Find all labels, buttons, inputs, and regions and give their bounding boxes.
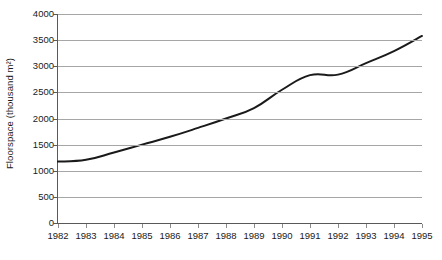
x-axis-tick-mark [282, 224, 283, 228]
x-axis-tick-mark [198, 224, 199, 228]
y-axis-tick-labels: 05001000150020002500300035004000 [18, 0, 54, 232]
x-axis-tick-mark [86, 224, 87, 228]
x-axis-tick-label: 1995 [402, 230, 442, 242]
x-axis-tick-mark [422, 224, 423, 228]
y-axis-tick-mark [53, 14, 58, 15]
y-axis-tick-mark [53, 145, 58, 146]
x-axis-tick-mark [58, 224, 59, 228]
gridline [58, 119, 422, 120]
gridline [58, 145, 422, 146]
gridline [58, 197, 422, 198]
y-axis-tick-label: 3000 [18, 61, 54, 71]
x-axis-line [58, 223, 422, 224]
y-axis-tick-label: 2000 [18, 114, 54, 124]
y-axis-tick-label: 0 [18, 218, 54, 228]
gridline [58, 171, 422, 172]
x-axis-tick-mark [394, 224, 395, 228]
x-axis-tick-labels: 1982198319841985198619871988198919901991… [0, 230, 442, 246]
x-axis-tick-mark [170, 224, 171, 228]
y-axis-tick-label: 1500 [18, 140, 54, 150]
x-axis-tick-mark [114, 224, 115, 228]
gridline [58, 92, 422, 93]
y-axis-tick-mark [53, 197, 58, 198]
y-axis-tick-mark [53, 40, 58, 41]
gridline [58, 14, 422, 15]
y-axis-tick-label: 4000 [18, 9, 54, 19]
y-axis-tick-mark [53, 119, 58, 120]
x-axis-tick-mark [310, 224, 311, 228]
x-axis-tick-mark [226, 224, 227, 228]
line-chart: Floorspace (thousand m²) 050010001500200… [0, 0, 442, 260]
gridline [58, 40, 422, 41]
x-axis-tick-mark [142, 224, 143, 228]
y-axis-tick-label: 2500 [18, 87, 54, 97]
y-axis-tick-mark [53, 66, 58, 67]
x-axis-tick-mark [338, 224, 339, 228]
y-axis-tick-label: 500 [18, 192, 54, 202]
y-axis-label: Floorspace (thousand m²) [0, 0, 20, 226]
y-axis-label-text: Floorspace (thousand m²) [5, 57, 16, 168]
y-axis-tick-label: 3500 [18, 35, 54, 45]
y-axis-tick-label: 1000 [18, 166, 54, 176]
plot-area [58, 14, 422, 223]
y-axis-tick-mark [53, 171, 58, 172]
gridline [58, 66, 422, 67]
series-line [58, 36, 422, 162]
x-axis-tick-mark [254, 224, 255, 228]
x-axis-tick-mark [366, 224, 367, 228]
y-axis-tick-mark [53, 92, 58, 93]
